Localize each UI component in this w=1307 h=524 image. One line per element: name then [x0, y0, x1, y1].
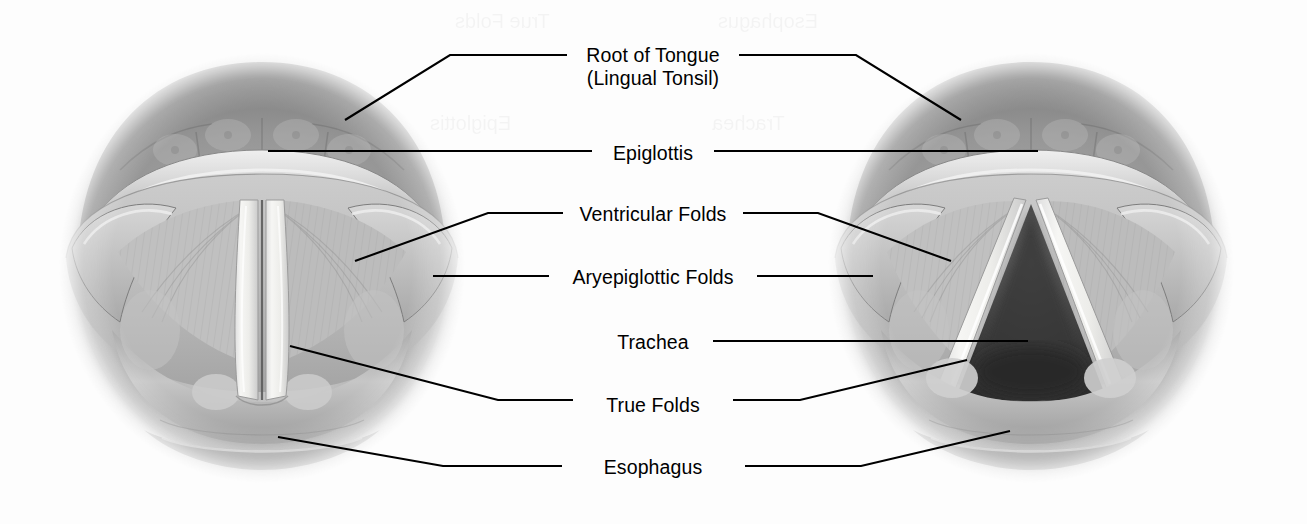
label-root-of-tongue-line2: (Lingual Tonsil)	[587, 67, 719, 89]
label-root-of-tongue: Root of Tongue(Lingual Tonsil)	[586, 44, 719, 90]
label-trachea: Trachea	[617, 331, 689, 354]
right-larynx-view	[831, 56, 1231, 480]
label-epiglottis-line1: Epiglottis	[613, 142, 693, 164]
label-esophagus-line1: Esophagus	[604, 456, 702, 478]
label-esophagus: Esophagus	[604, 456, 702, 479]
label-aryepiglottic-folds-line1: Aryepiglottic Folds	[572, 266, 733, 288]
label-epiglottis: Epiglottis	[613, 142, 693, 165]
label-root-of-tongue-line1: Root of Tongue	[586, 44, 719, 66]
true-folds-left-closed	[235, 200, 289, 405]
label-ventricular-folds-line1: Ventricular Folds	[580, 203, 727, 225]
left-larynx-view	[62, 56, 462, 480]
label-ventricular-folds: Ventricular Folds	[580, 203, 727, 226]
label-true-folds-line1: True Folds	[606, 394, 699, 416]
label-aryepiglottic-folds: Aryepiglottic Folds	[572, 266, 733, 289]
trachea-lumen-right	[975, 346, 1087, 398]
anatomy-figure: EpiglottisTracheaTrue FoldsEsophagus	[0, 0, 1307, 524]
label-true-folds: True Folds	[606, 394, 699, 417]
label-trachea-line1: Trachea	[617, 331, 689, 353]
